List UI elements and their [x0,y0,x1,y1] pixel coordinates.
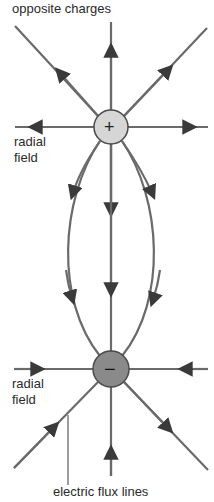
minus-symbol: − [104,358,116,380]
radial-field-label-bottom-1: radial [12,376,44,391]
radial-field-label-bottom-2: field [12,392,36,407]
plus-symbol: + [104,117,115,137]
electric-flux-lines-label: electric flux lines [53,484,148,499]
field-diagram [0,0,214,502]
radial-field-label-top-1: radial [14,134,46,149]
connecting-flux-lines [66,141,160,356]
radial-field-label-top-2: field [14,150,38,165]
diagram-title: opposite charges [12,1,111,16]
